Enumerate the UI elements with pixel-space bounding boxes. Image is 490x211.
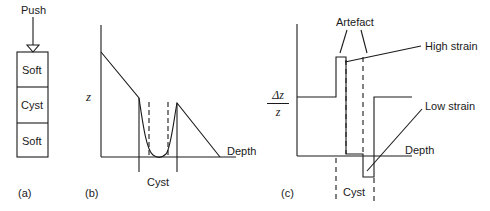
low-strain-label: Low strain [425, 100, 475, 112]
panel-b-graphics [101, 25, 236, 172]
low-strain-leader [367, 109, 422, 171]
panel-b-caption: (b) [85, 187, 98, 199]
b-displacement-curve [101, 52, 220, 157]
layer-label-top: Soft [22, 64, 42, 76]
c-y-axis-label: Δz z [267, 89, 289, 118]
artefact-leader-right [361, 30, 367, 53]
c-strain-profile [297, 57, 412, 177]
b-y-axis-label: z [86, 91, 91, 103]
panel-c-caption: (c) [281, 187, 294, 199]
push-arrow-head [27, 45, 39, 52]
diagram-canvas [0, 0, 490, 211]
b-x-axis-label: Depth [227, 145, 256, 157]
panel-c-graphics [297, 24, 422, 203]
c-x-axis-label: Depth [405, 144, 434, 156]
c-y-label-denominator: z [267, 106, 289, 118]
push-label: Push [21, 4, 46, 16]
artefact-leader-left [340, 30, 347, 53]
panel-a-caption: (a) [18, 187, 31, 199]
c-cyst-label: Cyst [343, 186, 365, 198]
layer-label-middle: Cyst [21, 99, 43, 111]
c-y-label-numerator: Δz [267, 89, 289, 101]
artefact-label: Artefact [336, 16, 374, 28]
high-strain-leader [345, 46, 421, 62]
layer-label-bottom: Soft [22, 135, 42, 147]
b-cyst-label: Cyst [147, 176, 169, 188]
high-strain-label: High strain [425, 40, 478, 52]
fraction-bar [267, 103, 289, 104]
